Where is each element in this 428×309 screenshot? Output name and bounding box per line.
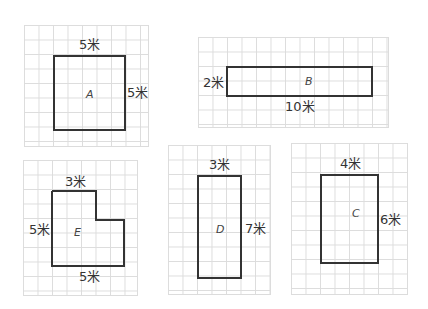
shape-d-name: D xyxy=(216,224,224,235)
shape-c-right-label: 6米 xyxy=(380,213,401,226)
shape-c-top-label: 4米 xyxy=(340,157,361,170)
shape-c-rectangle xyxy=(320,174,379,264)
shape-e-top-label: 3米 xyxy=(65,175,86,188)
shape-e-bottom-label: 5米 xyxy=(79,270,100,283)
shape-d-top-label: 3米 xyxy=(209,158,230,171)
shape-c-name: C xyxy=(352,208,360,219)
shape-d-right-label: 7米 xyxy=(245,222,266,235)
shape-e-name: E xyxy=(74,227,81,238)
shape-e-left-label: 5米 xyxy=(29,223,50,236)
